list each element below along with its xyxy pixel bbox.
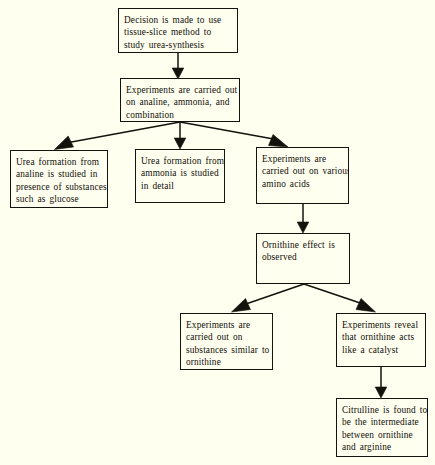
node-line: and arginine bbox=[342, 441, 422, 453]
node-line: Urea formation from bbox=[16, 156, 102, 168]
edge-decision-to-experiments bbox=[172, 53, 184, 79]
node-line: observed bbox=[262, 251, 344, 263]
node-line: Experiments are bbox=[262, 153, 343, 165]
node-line: Experiments reveal bbox=[342, 319, 420, 331]
node-urea-from-ammonia: Urea formation from ammonia is studied i… bbox=[135, 149, 225, 203]
node-substances-similar: Experiments are carried out on substance… bbox=[180, 313, 273, 370]
edge-ornithine-effect-to-substances bbox=[232, 284, 305, 312]
node-urea-from-analine: Urea formation from analine is studied i… bbox=[10, 150, 108, 208]
node-decision: Decision is made to use tissue-slice met… bbox=[118, 8, 238, 53]
node-line: amino acids bbox=[262, 178, 343, 190]
edge-experiments-to-amino-acids bbox=[180, 122, 288, 147]
flowchart-canvas: Decision is made to use tissue-slice met… bbox=[0, 0, 435, 465]
connector-layer bbox=[0, 0, 435, 465]
edge-experiments-to-analine-box bbox=[55, 122, 181, 150]
node-line: substances similar to bbox=[186, 344, 267, 356]
node-line: that ornithine acts bbox=[342, 331, 420, 343]
edge-amino-acids-to-ornithine-effect bbox=[297, 204, 309, 233]
node-line: Experiments are carried out bbox=[126, 84, 234, 96]
node-various-amino-acids: Experiments are carried out on various a… bbox=[256, 147, 349, 204]
node-line: combination bbox=[126, 109, 234, 121]
node-line: such as glucose bbox=[16, 193, 102, 205]
node-line: be the intermediate bbox=[342, 416, 422, 428]
node-line: between ornithine bbox=[342, 429, 422, 441]
node-line: in detail bbox=[141, 180, 219, 192]
node-line: on analine, ammonia, and bbox=[126, 96, 234, 108]
node-line: study urea-synthesis bbox=[124, 39, 232, 51]
node-citrulline: Citrulline is found to be the intermedia… bbox=[336, 398, 428, 457]
node-line: Citrulline is found to bbox=[342, 404, 422, 416]
node-line: analine is studied in bbox=[16, 168, 102, 180]
edge-experiments-to-ammonia-box bbox=[174, 122, 186, 149]
node-line: carried out on bbox=[186, 331, 267, 343]
edge-ornithine-effect-to-catalyst bbox=[304, 284, 376, 312]
node-ornithine-effect: Ornithine effect is observed bbox=[256, 233, 350, 284]
node-line: ornithine bbox=[186, 356, 267, 368]
node-experiments-analine: Experiments are carried out on analine, … bbox=[120, 78, 240, 122]
node-line: Urea formation from bbox=[141, 155, 219, 167]
node-line: like a catalyst bbox=[342, 344, 420, 356]
node-line: presence of substances bbox=[16, 181, 102, 193]
edge-catalyst-to-citrulline bbox=[375, 367, 387, 398]
node-line: tissue-slice method to bbox=[124, 26, 232, 38]
node-line: Experiments are bbox=[186, 319, 267, 331]
node-ornithine-catalyst: Experiments reveal that ornithine acts l… bbox=[336, 313, 426, 367]
node-line: Ornithine effect is bbox=[262, 239, 344, 251]
node-line: carried out on various bbox=[262, 165, 343, 177]
node-line: ammonia is studied bbox=[141, 167, 219, 179]
node-line: Decision is made to use bbox=[124, 14, 232, 26]
